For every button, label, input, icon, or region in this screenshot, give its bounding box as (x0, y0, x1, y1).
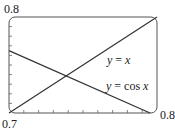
annotation-2-eq: = cos (111, 79, 143, 93)
annotation-1-rhs: x (125, 53, 130, 67)
x-axis-right-label: 0.8 (160, 109, 175, 121)
series-y-equals-x (9, 17, 157, 113)
annotation-y-equals-cos-x: y = cos x (106, 80, 148, 92)
annotation-2-rhs: x (143, 79, 148, 93)
annotation-1-eq: = (112, 53, 125, 67)
plot-area (0, 0, 175, 139)
y-axis-top-label: 0.8 (4, 3, 19, 15)
x-axis-origin-label: 0.7 (2, 118, 17, 130)
annotation-y-equals-x: y = x (107, 54, 130, 66)
